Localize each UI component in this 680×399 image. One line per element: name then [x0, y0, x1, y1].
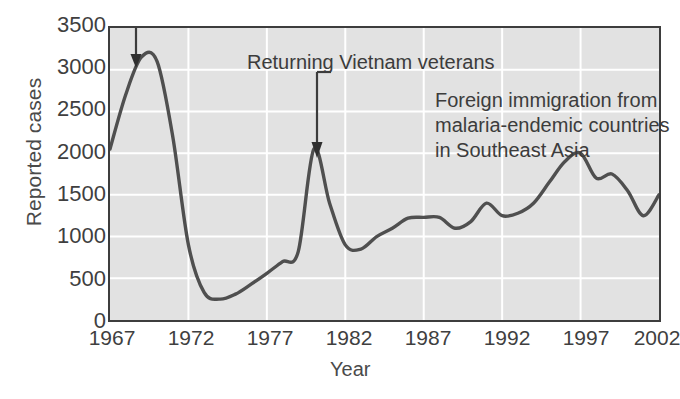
y-tick-1000: 1000 [20, 223, 106, 249]
annotation-foreign-immigration: Foreign immigration from malaria-endemic… [435, 88, 670, 163]
figure-caption [8, 385, 672, 399]
annotation-immigration-line-1: malaria-endemic countries [435, 113, 670, 138]
y-tick-500: 500 [20, 266, 106, 292]
plot-area: Returning Vietnam veterans Foreign immig… [108, 26, 661, 322]
annotation-vietnam-line-0: Returning Vietnam veterans [247, 50, 495, 75]
x-tick-1992: 1992 [484, 326, 531, 350]
y-tick-3500: 3500 [20, 12, 106, 38]
y-tick-1500: 1500 [20, 181, 106, 207]
x-tick-1997: 1997 [563, 326, 610, 350]
malaria-reported-cases-chart: Reported cases Year 3500 3000 2500 2000 … [0, 0, 680, 399]
annotation-immigration-line-2: in Southeast Asia [435, 138, 670, 163]
annotation-immigration-line-0: Foreign immigration from [435, 88, 670, 113]
x-tick-1982: 1982 [326, 326, 373, 350]
x-tick-2002: 2002 [634, 326, 680, 350]
annotation-vietnam-veterans: Returning Vietnam veterans [247, 50, 495, 75]
y-tick-2500: 2500 [20, 96, 106, 122]
x-tick-1977: 1977 [247, 326, 294, 350]
y-tick-3000: 3000 [20, 54, 106, 80]
x-tick-1967: 1967 [89, 326, 136, 350]
x-axis-title: Year [330, 358, 370, 381]
annotation-arrows [131, 28, 332, 158]
x-tick-1972: 1972 [168, 326, 215, 350]
y-tick-2000: 2000 [20, 139, 106, 165]
x-tick-1987: 1987 [405, 326, 452, 350]
